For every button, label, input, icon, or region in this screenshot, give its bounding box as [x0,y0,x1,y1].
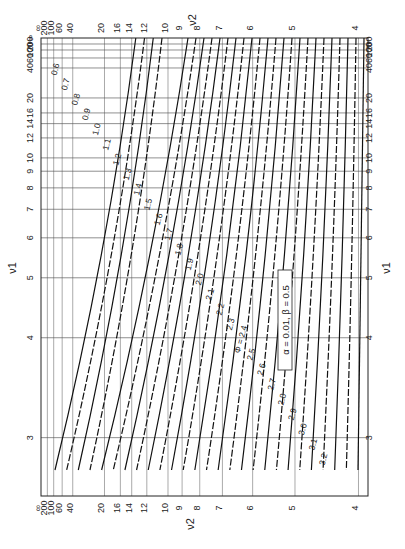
phi-curve-label: 2.0 [193,272,206,286]
phi-curves [55,38,364,470]
nu2-tick-label-top: 9 [174,25,184,30]
nu2-tick-label-bottom: 20 [96,503,106,513]
nu2-tick-label-top: 20 [96,23,106,33]
grid-lines [41,38,368,496]
nu1-tick-label: 16 [364,108,374,118]
nu1-tick-label: 20 [25,93,35,103]
nu2-tick-label-bottom: 12 [139,503,149,513]
nu2-tick-label-bottom: 40 [65,503,75,513]
phi-curve [335,38,348,470]
annotation-box: α = 0.01, β = 0.5 [278,270,292,370]
nu2-tick-label-bottom: 5 [287,505,297,510]
power-chart: 3344556677889910101212141416162020404060… [0,0,405,549]
nu1-tick-label: 5 [25,275,35,280]
phi-curve [125,38,204,470]
nu1-axis-label-left: ν1 [6,262,18,274]
phi-curve-label: 3.1 [306,437,319,451]
svg-text:α = 0.01, β = 0.5: α = 0.01, β = 0.5 [280,285,291,355]
nu1-tick-label: 9 [364,169,374,174]
nu1-tick-label: 40 [364,63,374,73]
nu1-tick-label: 10 [25,153,35,163]
phi-curve-label: 1.7 [162,227,175,241]
phi-curve-label: 1.2 [111,152,124,166]
phi-curve [183,38,244,470]
nu2-tick-label-top: 14 [124,23,134,33]
phi-curve [253,38,292,470]
nu2-tick-label-bottom: 10 [160,503,170,513]
nu2-tick-label-bottom: 6 [245,505,255,510]
nu2-tick-label-top: 4 [350,25,360,30]
nu1-tick-label: ∞ [26,35,35,41]
nu2-tick-label-top: 7 [214,25,224,30]
nu1-tick-label: 14 [25,119,35,129]
phi-curve-label: 0.8 [69,92,82,106]
phi-curve-label: 1.1 [100,137,113,151]
phi-curve [55,38,136,470]
phi-curve-label: 2.8 [276,392,289,406]
nu2-tick-label-bottom: 9 [174,505,184,510]
phi-curve-label: 1.8 [172,242,185,256]
nu1-tick-label: 12 [25,133,35,143]
phi-curve [218,38,268,470]
nu1-tick-label: 8 [25,185,35,190]
nu1-axis-label-right: ν1 [380,262,392,274]
nu1-tick-label: 5 [364,275,374,280]
nu2-tick-label-top: 10 [160,23,170,33]
phi-curve [90,38,162,470]
nu2-tick-label-bottom: 8 [192,505,202,510]
nu2-tick-label-top: 40 [65,23,75,33]
nu2-tick-label-top: 16 [112,23,122,33]
phi-curve-label: 1.0 [90,122,103,136]
nu1-tick-label: 7 [25,207,35,212]
phi-curve-label: 2.6 [255,362,268,376]
nu2-tick-label-top: 6 [245,25,255,30]
phi-curve [78,38,153,470]
nu1-tick-label: 3 [364,435,374,440]
nu2-axis-label-bottom: ν2 [184,518,196,530]
nu1-tick-label: 8 [364,185,374,190]
phi-curve-label: 0.6 [49,62,62,76]
nu1-tick-label: 6 [25,235,35,240]
phi-curve-label: 3.2 [317,452,330,466]
nu1-tick-label: 10 [364,153,374,163]
phi-curve-label: 1.9 [183,257,196,271]
phi-curve-label: 2.7 [265,377,278,391]
phi-curve-label: 2.9 [286,407,299,421]
phi-curve-label: 1.6 [152,212,165,226]
phi-curve-label: 2.2 [214,302,227,316]
nu1-tick-label: 40 [25,63,35,73]
phi-curve-label: 3.0 [296,422,309,436]
nu2-tick-label-top: 60 [54,23,64,33]
phi-curve-label: 2.3 [224,317,237,331]
nu1-tick-label: 16 [25,108,35,118]
nu1-tick-label: 12 [364,133,374,143]
nu1-tick-label: 4 [25,335,35,340]
nu1-tick-label: 14 [364,119,374,129]
phi-curve [207,38,261,470]
nu2-tick-label-bottom: 14 [124,503,134,513]
nu2-tick-label-bottom: 60 [54,503,64,513]
nu2-axis-label-top: ν2 [186,14,198,26]
nu2-tick-label-top: 12 [139,23,149,33]
nu1-tick-label: 7 [364,207,374,212]
nu1-tick-label: 9 [25,169,35,174]
nu1-tick-label: 4 [364,335,374,340]
nu2-tick-label-bottom: 16 [112,503,122,513]
nu1-tick-label: 20 [364,93,374,103]
nu1-tick-label: 200 [364,36,374,51]
nu1-tick-label: 3 [25,435,35,440]
nu2-tick-label-top: 5 [287,25,297,30]
nu1-tick-label: 6 [364,235,374,240]
nu2-tick-label-bottom: 4 [350,505,360,510]
phi-curve-label: 0.9 [80,107,93,121]
nu2-tick-label-bottom: 7 [214,505,224,510]
curve-labels: 0.60.70.80.91.01.11.21.31.41.51.61.71.81… [49,62,330,466]
phi-curve [346,38,356,470]
phi-curve [288,38,316,470]
phi-curve-label: 2.1 [203,287,216,301]
phi-curve-label: 0.7 [59,77,72,91]
plot-frame [41,38,368,496]
